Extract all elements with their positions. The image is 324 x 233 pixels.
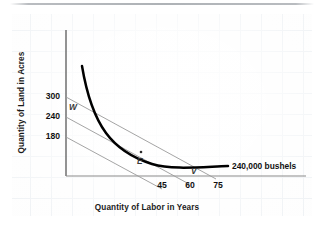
y-axis-title: Quantity of Land in Acres xyxy=(17,43,26,163)
isoquant-curve xyxy=(82,66,228,168)
y-tick-label-180: 180 xyxy=(34,131,60,141)
point-label-v: V xyxy=(191,166,197,176)
x-tick-label-45: 45 xyxy=(152,180,172,190)
isoquant-curve-label: 240,000 bushels xyxy=(232,161,296,171)
tangency-point-marker xyxy=(140,151,143,154)
x-tick-label-60: 60 xyxy=(180,180,200,190)
y-tick-label-300: 300 xyxy=(34,91,60,101)
isocost-line-middle xyxy=(66,117,189,184)
figure-canvas: 300 240 180 45 60 75 W E V 240,000 bushe… xyxy=(0,0,324,233)
y-tick-label-240: 240 xyxy=(34,111,60,121)
x-tick-label-75: 75 xyxy=(208,180,228,190)
point-label-w: W xyxy=(69,102,77,112)
x-axis-title: Quantity of Labor in Years xyxy=(62,203,232,212)
point-label-e: E xyxy=(137,156,143,166)
